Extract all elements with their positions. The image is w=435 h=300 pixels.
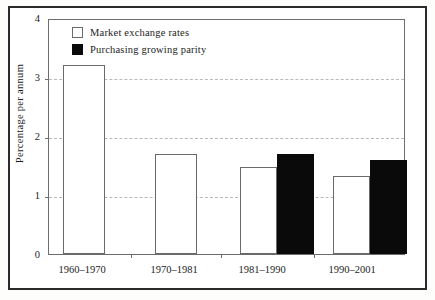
legend: Market exchange rates Purchasing growing…	[72, 25, 206, 59]
bar-purchasing-growing-parity-1990-2001	[370, 160, 407, 254]
y-tick-label-1: 1	[35, 191, 40, 201]
y-tick-mark-1	[45, 197, 49, 198]
x-tick-mark-1	[131, 254, 132, 258]
y-tick-label-3: 3	[35, 73, 40, 83]
y-tick-label-0: 0	[35, 250, 40, 260]
y-tick-mark-2	[45, 138, 49, 139]
legend-item-market-exchange-rates: Market exchange rates	[72, 25, 206, 40]
bar-market-exchange-rates-1981-1990	[240, 167, 277, 254]
legend-item-purchasing-growing-parity: Purchasing growing parity	[72, 42, 206, 57]
x-tick-mark-3	[314, 254, 315, 258]
figure: Percentage per annum 4 3 2 1 0	[0, 0, 435, 300]
y-tick-mark-3	[45, 79, 49, 80]
y-tick-label-2: 2	[35, 132, 40, 142]
plot-area: Market exchange rates Purchasing growing…	[48, 19, 405, 255]
x-tick-mark-2	[221, 254, 222, 258]
bar-market-exchange-rates-1970-1981	[155, 154, 197, 254]
legend-swatch-filled-icon	[72, 44, 83, 55]
x-category-label-1970-1981: 1970–1981	[140, 264, 208, 275]
x-category-label-1981-1990: 1981–1990	[228, 264, 296, 275]
legend-swatch-open-icon	[72, 27, 83, 38]
y-tick-label-4: 4	[35, 14, 40, 24]
bar-market-exchange-rates-1990-2001	[333, 176, 370, 254]
legend-label-purchasing-growing-parity: Purchasing growing parity	[90, 44, 206, 55]
y-axis-tick-labels: 4 3 2 1 0	[0, 0, 48, 300]
bar-purchasing-growing-parity-1981-1990	[277, 154, 314, 254]
bar-market-exchange-rates-1960-1970	[63, 65, 105, 254]
legend-label-market-exchange-rates: Market exchange rates	[90, 27, 189, 38]
x-category-label-1990-2001: 1990–2001	[318, 264, 386, 275]
x-category-label-1960-1970: 1960–1970	[48, 264, 116, 275]
